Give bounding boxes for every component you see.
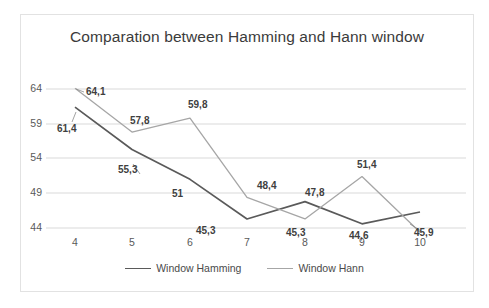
data-label: 45,3 [286, 227, 305, 238]
data-label: 61,4 [57, 123, 76, 134]
y-axis-tick-label: 49 [20, 186, 42, 198]
data-label: 51 [172, 188, 183, 199]
data-label: 45,3 [196, 225, 215, 236]
data-label: 48,4 [257, 180, 276, 191]
data-label: 44,6 [349, 230, 368, 241]
chart-title: Comparation between Hamming and Hann win… [21, 27, 473, 47]
chart-container: Comparation between Hamming and Hann win… [20, 14, 474, 292]
legend-item-window-hamming[interactable]: Window Hamming [125, 262, 241, 274]
data-label: 55,3 [118, 164, 137, 175]
data-label: 59,8 [188, 99, 207, 110]
x-axis-tick-label: 6 [178, 236, 202, 248]
y-axis-tick-label: 44 [20, 221, 42, 233]
legend-swatch-hamming [125, 268, 151, 269]
data-label: 45,9 [414, 227, 433, 238]
data-label: 57,8 [130, 115, 149, 126]
x-axis-tick-label: 5 [120, 236, 144, 248]
y-axis-tick-label: 54 [20, 151, 42, 163]
chart-legend: Window Hamming Window Hann [0, 262, 489, 274]
x-axis-tick-label: 4 [63, 236, 87, 248]
legend-item-window-hann[interactable]: Window Hann [267, 262, 363, 274]
legend-swatch-hann [267, 268, 293, 269]
data-label: 47,8 [305, 187, 324, 198]
y-axis-tick-label: 59 [20, 117, 42, 129]
legend-label-hann: Window Hann [298, 262, 363, 274]
data-label: 64,1 [86, 86, 105, 97]
y-axis-tick-label: 64 [20, 82, 42, 94]
x-axis-tick-label: 7 [235, 236, 259, 248]
data-label: 51,4 [357, 159, 376, 170]
legend-label-hamming: Window Hamming [156, 262, 241, 274]
